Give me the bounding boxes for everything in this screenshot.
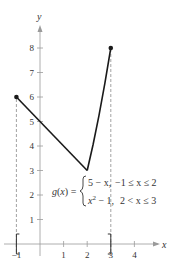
x-tick-label: 4 (132, 250, 137, 260)
case1-condition: −1 ≤ x ≤ 2 (115, 177, 157, 188)
y-axis-arrow-icon (38, 25, 43, 32)
function-lhs: g(x) = (52, 186, 77, 198)
y-tick-label: 4 (30, 141, 35, 151)
y-tick-label: 2 (30, 190, 35, 200)
piecewise-function-chart: x y −11234 12345678 g(x) = 5 − x, −1 ≤ x… (0, 0, 171, 277)
function-graph (16, 48, 110, 171)
case1-expression: 5 − x, (88, 177, 111, 188)
y-axis-label: y (36, 11, 42, 22)
x-axis-arrow-icon (153, 242, 160, 247)
case2-expression: x2 − 1, (87, 194, 114, 206)
axes (4, 28, 158, 256)
y-tick-label: 3 (30, 166, 35, 176)
case2-condition: 2 < x ≤ 3 (120, 195, 156, 206)
function-segment (87, 48, 111, 171)
x-axis-label: x (161, 239, 167, 250)
function-definition: g(x) = 5 − x, −1 ≤ x ≤ 2 x2 − 1, 2 < x ≤… (52, 176, 157, 206)
y-tick-label: 6 (30, 92, 35, 102)
function-segment (16, 97, 87, 171)
y-tick-label: 1 (30, 215, 35, 225)
closed-endpoint-dot (14, 95, 19, 100)
x-tick-label: 1 (61, 250, 66, 260)
y-tick-label: 7 (30, 68, 35, 78)
y-ticks: 12345678 (30, 43, 44, 225)
y-tick-label: 8 (30, 43, 35, 53)
y-tick-label: 5 (30, 117, 35, 127)
brace-icon (80, 176, 86, 206)
x-tick-label: 2 (85, 250, 90, 260)
closed-endpoint-dot (109, 46, 114, 51)
